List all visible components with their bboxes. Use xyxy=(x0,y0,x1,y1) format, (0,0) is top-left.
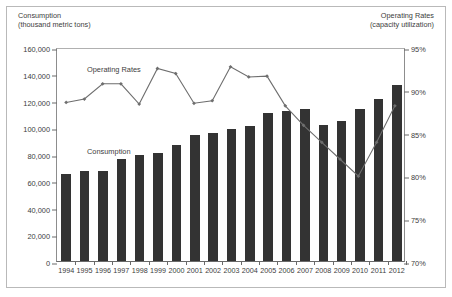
line-marker xyxy=(229,65,233,69)
bar xyxy=(61,174,71,261)
x-axis-tick-mark xyxy=(369,261,370,265)
bar xyxy=(374,99,384,261)
left-axis-tick-label: 60,000 xyxy=(27,178,57,187)
x-axis-tick-mark xyxy=(94,261,95,265)
bar xyxy=(392,85,402,261)
x-axis-tick-label: 2009 xyxy=(334,266,350,275)
x-axis-tick-label: 1999 xyxy=(150,266,166,275)
x-axis-tick-mark xyxy=(130,261,131,265)
line-marker xyxy=(210,99,214,103)
x-axis-tick-label: 2003 xyxy=(224,266,240,275)
x-axis-tick-label: 2012 xyxy=(389,266,405,275)
line-marker xyxy=(283,104,287,108)
series-annotation-consumption: Consumption xyxy=(87,147,131,156)
left-axis-tick-label: 0 xyxy=(46,259,57,268)
x-axis-tick-mark xyxy=(406,261,407,265)
x-axis-tick-mark xyxy=(259,261,260,265)
x-axis-tick-mark xyxy=(167,261,168,265)
x-axis-tick-mark xyxy=(112,261,113,265)
bar xyxy=(98,171,108,261)
x-axis-tick-mark xyxy=(222,261,223,265)
x-axis-tick-mark xyxy=(277,261,278,265)
left-axis-tick-label: 80,000 xyxy=(27,152,57,161)
x-axis-tick-mark xyxy=(388,261,389,265)
bar xyxy=(172,145,182,261)
left-axis-tick-label: 120,000 xyxy=(23,98,57,107)
bar xyxy=(153,153,163,261)
line-marker xyxy=(137,102,141,106)
x-axis-tick-mark xyxy=(186,261,187,265)
bar xyxy=(208,133,218,261)
right-axis-tick-label: 90% xyxy=(404,87,426,96)
bar xyxy=(135,155,145,261)
x-axis-tick-label: 2001 xyxy=(187,266,203,275)
bar xyxy=(300,109,310,261)
x-axis-tick-mark xyxy=(333,261,334,265)
x-axis-tick-label: 2005 xyxy=(260,266,276,275)
x-axis-tick-label: 2007 xyxy=(297,266,313,275)
x-axis-tick-label: 2004 xyxy=(242,266,258,275)
left-axis-tick-label: 140,000 xyxy=(23,71,57,80)
left-axis-title-line1: Consumption xyxy=(18,11,91,20)
x-axis-tick-label: 2010 xyxy=(352,266,368,275)
chart-figure: Consumption (thousand metric tons) Opera… xyxy=(0,0,452,297)
bar xyxy=(80,171,90,261)
plot-area: 020,00040,00060,00080,000100,000120,0001… xyxy=(56,48,405,262)
series-annotation-operating-rates: Operating Rates xyxy=(87,65,141,74)
left-axis-tick-label: 100,000 xyxy=(23,125,57,134)
left-axis-tick-label: 160,000 xyxy=(23,45,57,54)
line-marker xyxy=(192,101,196,105)
left-axis-tick-label: 40,000 xyxy=(27,205,57,214)
bar xyxy=(263,113,273,261)
x-axis-tick-mark xyxy=(204,261,205,265)
x-axis-tick-label: 1997 xyxy=(113,266,129,275)
x-axis-tick-label: 1995 xyxy=(77,266,93,275)
x-axis-tick-label: 2002 xyxy=(205,266,221,275)
right-axis-title: Operating Rates (capacity utilization) xyxy=(370,11,434,29)
line-marker xyxy=(83,97,87,101)
bar xyxy=(319,125,329,261)
right-axis-title-line2: (capacity utilization) xyxy=(370,20,434,29)
x-axis-tick-mark xyxy=(351,261,352,265)
line-marker xyxy=(101,82,105,86)
bar xyxy=(190,135,200,261)
line-marker xyxy=(119,82,123,86)
bar xyxy=(355,109,365,261)
line-marker xyxy=(156,67,160,71)
left-axis-tick-label: 20,000 xyxy=(27,232,57,241)
x-axis-tick-mark xyxy=(241,261,242,265)
line-marker xyxy=(247,75,251,79)
bar xyxy=(227,129,237,261)
x-axis-tick-label: 1994 xyxy=(58,266,74,275)
x-axis-tick-mark xyxy=(296,261,297,265)
x-axis-tick-label: 2000 xyxy=(168,266,184,275)
right-axis-tick-label: 85% xyxy=(404,130,426,139)
line-marker xyxy=(265,74,269,78)
line-marker xyxy=(174,72,178,76)
bar xyxy=(245,126,255,261)
line-marker xyxy=(64,101,68,105)
x-axis-tick-mark xyxy=(75,261,76,265)
bar xyxy=(337,121,347,261)
right-axis-tick-label: 80% xyxy=(404,173,426,182)
x-axis-tick-label: 2008 xyxy=(315,266,331,275)
left-axis-title: Consumption (thousand metric tons) xyxy=(18,11,91,29)
x-axis-tick-mark xyxy=(149,261,150,265)
x-axis-tick-label: 2011 xyxy=(371,266,386,275)
x-axis-tick-label: 1996 xyxy=(95,266,111,275)
right-axis-tick-label: 95% xyxy=(404,45,426,54)
x-axis-tick-label: 2006 xyxy=(279,266,295,275)
x-axis-tick-mark xyxy=(314,261,315,265)
left-axis-title-line2: (thousand metric tons) xyxy=(18,20,91,29)
right-axis-tick-label: 75% xyxy=(404,216,426,225)
bar xyxy=(282,111,292,261)
x-axis-tick-label: 1998 xyxy=(132,266,148,275)
right-axis-tick-label: 70% xyxy=(404,259,426,268)
bar xyxy=(117,159,127,261)
right-axis-title-line1: Operating Rates xyxy=(370,11,434,20)
